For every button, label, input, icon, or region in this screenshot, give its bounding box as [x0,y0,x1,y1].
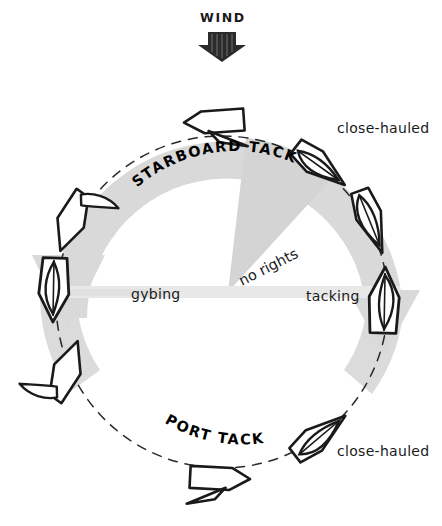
points-of-sail-diagram: STARBOARD TACK PORT TACK no rights WIND … [0,0,442,526]
boat-run-bottom [187,466,251,507]
callout-close-hauled-starboard: close-hauled [337,120,429,136]
wind-label: WIND [200,10,246,25]
sector-label-port-tack: PORT TACK [163,411,266,447]
callout-close-hauled-port: close-hauled [337,443,429,459]
maneuver-label-gybing: gybing [131,286,181,302]
wind-arrow-down-icon [198,32,246,62]
wind-rotation-ring [32,141,420,394]
maneuver-label-tacking: tacking [306,288,360,304]
